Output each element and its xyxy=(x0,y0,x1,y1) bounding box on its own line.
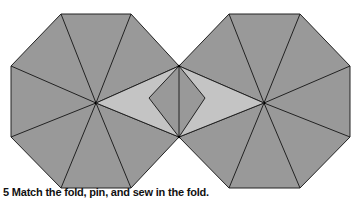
fold-top-dot xyxy=(178,65,181,68)
octagon-pattern-diagram xyxy=(0,0,354,199)
fold-bottom-dot xyxy=(178,136,181,139)
instruction-caption: 5 Match the fold, pin, and sew in the fo… xyxy=(3,186,209,198)
